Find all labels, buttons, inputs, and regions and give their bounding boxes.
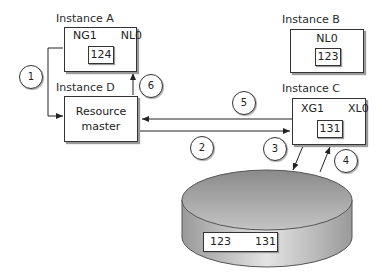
instance-a-block: 124 [88,46,114,64]
resource-master-box: Resource master [64,96,138,142]
step-6-marker: 6 [139,74,163,98]
instance-a-title: Instance A [56,12,114,25]
disk-to-block: 131 [255,235,276,248]
step-5-marker: 5 [232,91,256,115]
instance-c-box: XG1XL0 131 [292,98,366,145]
arrow-step-3 [293,146,303,170]
instance-a-box: NG1NL0 124 [64,27,137,72]
instance-b-block: 123 [315,48,341,66]
instance-a-from-state: NG1 [73,29,97,42]
step-3-marker: 3 [263,137,287,161]
resource-master-label-line2: master [65,120,137,133]
disk-from-block: 123 [210,235,231,248]
disk-block-transition: 123131 [203,232,278,252]
instance-b-state: NL0 [291,32,363,45]
instance-a-to-state: NL0 [121,29,142,42]
instance-c-title: Instance C [282,82,340,95]
arrow-step-4 [320,147,330,172]
instance-c-to-state: XL0 [348,102,369,115]
shared-disk [182,170,352,267]
resource-master-label-line1: Resource [65,105,137,118]
step-2-marker: 2 [190,136,214,160]
instance-c-block: 131 [317,120,343,138]
step-4-marker: 4 [334,149,358,173]
instance-c-transition: XG1XL0 [301,102,369,115]
instance-c-from-state: XG1 [301,102,324,115]
instance-a-transition: NG1NL0 [73,29,142,42]
instance-d-title: Instance D [56,81,115,94]
instance-b-box: NL0 123 [290,29,364,73]
instance-b-title: Instance B [282,13,340,26]
step-1-marker: 1 [19,65,43,89]
